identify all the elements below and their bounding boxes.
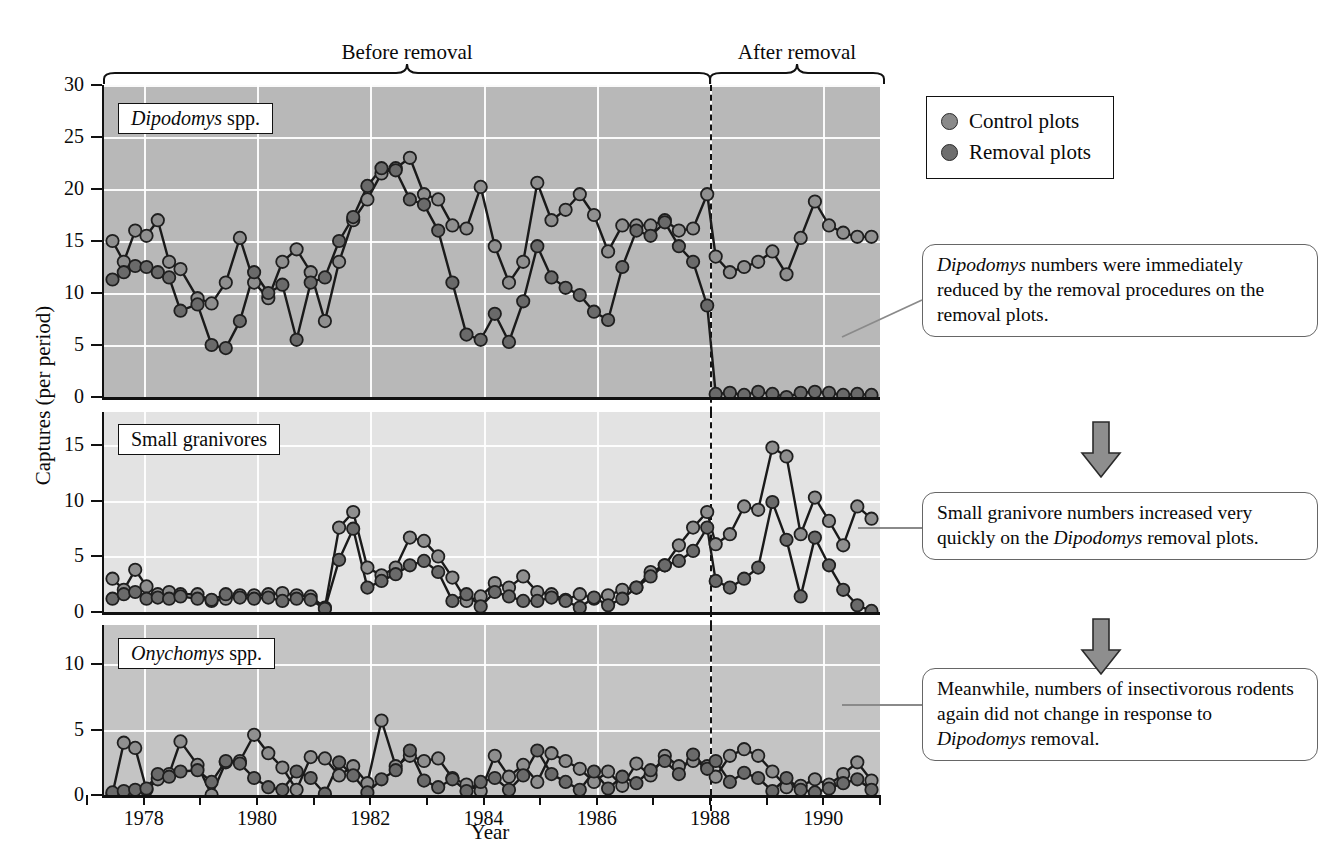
y-tick-label: 5 <box>24 545 84 565</box>
data-point-control <box>118 737 130 749</box>
data-point-removal <box>191 298 203 310</box>
removal-line-connector <box>710 397 712 412</box>
data-point-control <box>809 773 821 785</box>
data-point-removal <box>766 785 778 795</box>
y-tick-label: 10 <box>24 653 84 673</box>
data-point-control <box>333 521 345 533</box>
data-point-removal <box>446 276 458 288</box>
data-point-removal <box>404 193 416 205</box>
data-point-control <box>574 763 586 775</box>
data-point-control <box>865 231 877 243</box>
data-point-removal <box>460 588 472 600</box>
data-point-removal <box>865 605 877 612</box>
x-tick-mark <box>483 795 485 805</box>
data-point-removal <box>319 603 331 613</box>
panel-axis-left <box>102 85 105 400</box>
data-point-control <box>837 539 849 551</box>
data-point-removal <box>545 591 557 603</box>
data-point-removal <box>659 559 671 571</box>
y-tick-label: 0 <box>24 784 84 804</box>
data-point-removal <box>795 784 807 795</box>
data-point-control <box>588 209 600 221</box>
data-point-removal <box>262 591 274 603</box>
data-point-removal <box>687 256 699 268</box>
data-point-removal <box>738 573 750 585</box>
x-tick-label: 1978 <box>104 808 184 828</box>
data-point-control <box>404 152 416 164</box>
data-point-removal <box>174 305 186 317</box>
data-point-removal <box>163 771 175 783</box>
x-tick-mark <box>426 795 428 805</box>
data-point-removal <box>333 235 345 247</box>
data-point-control <box>432 193 444 205</box>
data-point-removal <box>851 388 863 397</box>
x-axis-label: Year <box>290 820 690 845</box>
data-point-control <box>531 177 543 189</box>
data-point-control <box>106 235 118 247</box>
data-point-removal <box>234 591 246 603</box>
data-point-control <box>205 297 217 309</box>
data-point-removal <box>460 785 472 795</box>
panel-label-genus: Dipodomys <box>131 107 222 129</box>
data-point-control <box>809 195 821 207</box>
data-point-control <box>559 755 571 767</box>
data-point-removal <box>588 765 600 777</box>
data-point-removal <box>106 273 118 285</box>
data-point-removal <box>752 561 764 573</box>
data-point-control <box>319 752 331 764</box>
data-point-removal <box>262 781 274 793</box>
legend-item-removal[interactable]: Removal plots <box>941 137 1091 168</box>
data-point-control <box>375 714 387 726</box>
data-point-removal <box>865 389 877 397</box>
data-point-removal <box>588 306 600 318</box>
legend-marker-icon <box>941 144 958 161</box>
data-point-removal <box>517 595 529 607</box>
data-point-removal <box>475 600 487 612</box>
data-point-removal <box>823 782 835 794</box>
data-point-removal <box>724 776 736 788</box>
y-tick-mark <box>91 444 102 446</box>
data-point-removal <box>418 555 430 567</box>
x-tick-mark <box>539 795 541 805</box>
data-point-removal <box>205 339 217 351</box>
data-point-removal <box>347 769 359 781</box>
data-point-removal <box>375 162 387 174</box>
data-point-control <box>152 214 164 226</box>
data-point-control <box>851 231 863 243</box>
data-point-removal <box>475 776 487 788</box>
data-point-removal <box>780 534 792 546</box>
data-point-removal <box>118 266 130 278</box>
data-point-removal <box>375 575 387 587</box>
data-point-removal <box>766 496 778 508</box>
data-point-removal <box>129 586 141 598</box>
callout-onychomys: Meanwhile, numbers of insectivorous rode… <box>922 668 1318 761</box>
data-point-removal <box>118 588 130 600</box>
data-point-control <box>673 539 685 551</box>
data-point-control <box>248 729 260 741</box>
data-point-removal <box>375 773 387 785</box>
data-point-removal <box>559 776 571 788</box>
data-point-control <box>738 261 750 273</box>
data-point-removal <box>503 590 515 602</box>
data-point-control <box>602 245 614 257</box>
data-point-removal <box>616 771 628 783</box>
data-point-removal <box>248 266 260 278</box>
data-point-removal <box>361 581 373 593</box>
data-point-control <box>710 250 722 262</box>
panel-label-1: Small granivores <box>118 424 280 455</box>
data-point-control <box>545 214 557 226</box>
data-point-removal <box>545 271 557 283</box>
data-point-control <box>446 571 458 583</box>
data-point-control <box>574 188 586 200</box>
data-point-control <box>795 528 807 540</box>
data-point-removal <box>503 784 515 795</box>
legend-item-control[interactable]: Control plots <box>941 106 1091 137</box>
y-tick-mark <box>91 136 102 138</box>
data-point-control <box>602 765 614 777</box>
data-point-removal <box>780 772 792 784</box>
data-point-control <box>724 750 736 762</box>
data-point-control <box>687 521 699 533</box>
removal-line-tail <box>710 795 712 811</box>
data-point-control <box>780 268 792 280</box>
legend-label: Control plots <box>969 111 1079 132</box>
